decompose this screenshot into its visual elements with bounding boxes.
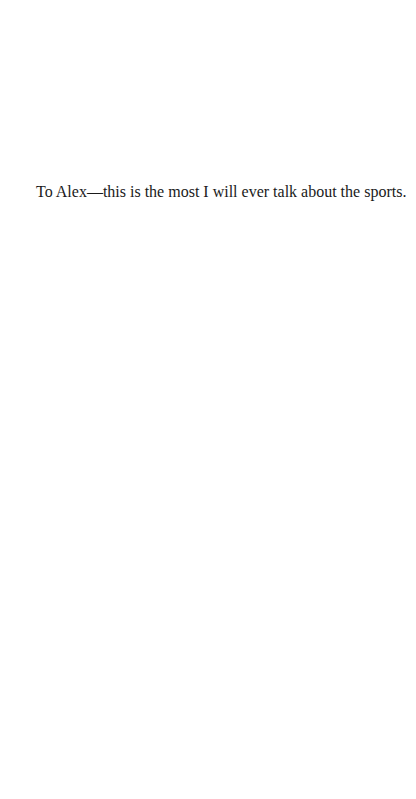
- book-page: To Alex—this is the most I will ever tal…: [0, 0, 416, 799]
- dedication-text: To Alex—this is the most I will ever tal…: [36, 182, 406, 202]
